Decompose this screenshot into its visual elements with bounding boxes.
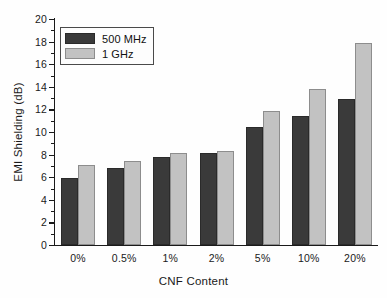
y-tick-mark-minor <box>51 234 55 235</box>
y-tick-mark <box>49 87 55 88</box>
y-tick-label: 16 <box>35 58 47 70</box>
x-tick-label: 0.5% <box>112 252 137 264</box>
y-tick-mark <box>49 222 55 223</box>
legend: 500 MHz 1 GHz <box>60 27 154 65</box>
bar <box>246 127 263 245</box>
y-tick-mark-minor <box>51 189 55 190</box>
x-tick-label: 20% <box>344 252 366 264</box>
y-tick-mark <box>49 177 55 178</box>
bar <box>153 157 170 245</box>
bar <box>107 168 124 245</box>
y-axis-title: EMI Shielding (dB) <box>12 82 24 181</box>
y-tick-label: 0 <box>41 239 47 251</box>
y-tick-mark-minor <box>51 98 55 99</box>
x-tick-label: 10% <box>298 252 320 264</box>
bar <box>170 153 187 245</box>
y-tick-label: 20 <box>35 13 47 25</box>
y-tick-mark-minor <box>51 121 55 122</box>
bar <box>61 178 78 245</box>
legend-label-1ghz: 1 GHz <box>102 48 134 60</box>
y-tick-mark-minor <box>51 143 55 144</box>
y-tick-label: 18 <box>35 36 47 48</box>
y-tick-mark <box>49 64 55 65</box>
y-tick-label: 12 <box>35 103 47 115</box>
legend-swatch-500mhz <box>65 33 95 44</box>
y-tick-mark-minor <box>51 166 55 167</box>
bar <box>263 111 280 245</box>
x-axis-title: CNF Content <box>0 275 387 287</box>
legend-item-500mhz: 500 MHz <box>65 31 147 46</box>
y-tick-label: 2 <box>41 216 47 228</box>
bar <box>78 165 95 245</box>
bar <box>309 89 326 245</box>
y-tick-mark-minor <box>51 76 55 77</box>
legend-item-1ghz: 1 GHz <box>65 46 147 61</box>
bar <box>338 99 355 245</box>
emi-shielding-bar-chart: 02468101214161820 0%0.5%1%2%5%10%20% EMI… <box>0 0 387 298</box>
legend-label-500mhz: 500 MHz <box>102 33 147 45</box>
y-tick-label: 4 <box>41 194 47 206</box>
y-tick-mark <box>49 19 55 20</box>
legend-swatch-1ghz <box>65 48 95 59</box>
bar <box>292 116 309 245</box>
y-tick-mark-minor <box>51 30 55 31</box>
y-tick-mark <box>49 155 55 156</box>
bar <box>355 43 372 245</box>
x-tick-label: 5% <box>255 252 271 264</box>
y-tick-mark <box>49 109 55 110</box>
y-tick-label: 14 <box>35 81 47 93</box>
bar <box>200 153 217 245</box>
y-tick-label: 8 <box>41 149 47 161</box>
x-tick-label: 1% <box>163 252 179 264</box>
y-tick-mark <box>49 245 55 246</box>
x-tick-label: 0% <box>70 252 86 264</box>
y-tick-mark <box>49 200 55 201</box>
y-tick-label: 10 <box>35 126 47 138</box>
bar <box>124 161 141 245</box>
bar <box>217 151 234 245</box>
y-tick-label: 6 <box>41 171 47 183</box>
y-tick-mark <box>49 42 55 43</box>
y-tick-mark-minor <box>51 211 55 212</box>
y-tick-mark-minor <box>51 53 55 54</box>
y-tick-mark <box>49 132 55 133</box>
x-tick-label: 2% <box>209 252 225 264</box>
